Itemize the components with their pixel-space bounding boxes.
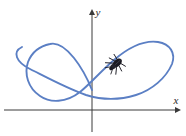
- x-axis-label: x: [173, 94, 179, 106]
- parametric-curve: [16, 42, 173, 101]
- y-axis-label: y: [95, 6, 101, 18]
- figure-canvas: x y: [0, 0, 186, 136]
- curve-diagram: x y: [0, 0, 186, 136]
- bug-marker: [102, 53, 127, 78]
